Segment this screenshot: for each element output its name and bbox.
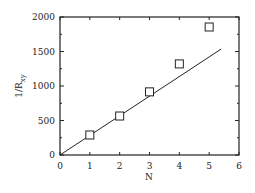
square-marker	[146, 88, 154, 96]
y-axis-ticks: 0500100015002000	[32, 12, 239, 160]
svg-text:1/Rxy: 1/Rxy	[14, 74, 27, 97]
x-tick-label: 2	[117, 161, 123, 171]
fit-line	[60, 49, 221, 155]
chart: 0500100015002000 0123456 N 1/Rxy	[0, 0, 255, 193]
x-tick-label: 1	[87, 161, 93, 171]
square-marker	[205, 23, 213, 31]
x-axis-label: N	[145, 172, 153, 182]
y-axis-label-main: 1/R	[14, 82, 24, 98]
x-tick-label: 3	[147, 161, 153, 171]
y-tick-label: 2000	[32, 12, 55, 22]
square-marker	[116, 112, 124, 120]
data-markers	[86, 23, 213, 139]
y-axis-label: 1/Rxy	[14, 74, 27, 97]
x-tick-label: 5	[206, 161, 212, 171]
y-tick-label: 1500	[32, 47, 55, 57]
y-axis-label-sub: xy	[19, 74, 27, 82]
x-tick-label: 6	[236, 161, 242, 171]
y-tick-label: 1000	[32, 81, 55, 91]
x-tick-label: 4	[176, 161, 182, 171]
y-tick-label: 0	[49, 150, 55, 160]
square-marker	[86, 131, 94, 139]
y-tick-label: 500	[38, 116, 55, 126]
x-tick-label: 0	[57, 161, 63, 171]
square-marker	[175, 60, 183, 68]
